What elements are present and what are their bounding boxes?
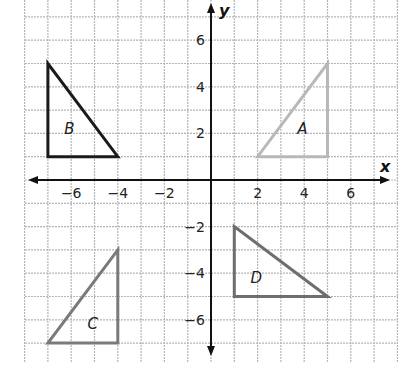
y-tick-label: −2 <box>184 219 205 235</box>
y-axis-label: y <box>219 1 230 20</box>
x-tick-label: 6 <box>346 185 355 201</box>
triangle-label-b: B <box>64 120 74 138</box>
y-tick-label: −6 <box>184 312 205 328</box>
x-tick-label: 4 <box>300 185 309 201</box>
triangle-label-d: D <box>251 269 263 287</box>
axes: xy <box>28 1 391 356</box>
y-axis-arrow-down-icon <box>207 346 215 356</box>
y-tick-label: 2 <box>196 125 205 141</box>
x-tick-label: 2 <box>253 185 262 201</box>
coordinate-plane: xy ABCD −6−4−2246642−2−4−6 <box>0 0 405 373</box>
x-tick-label: −6 <box>61 185 82 201</box>
x-axis-label: x <box>379 157 391 176</box>
y-axis-arrow-up-icon <box>207 3 215 13</box>
y-tick-label: 4 <box>196 79 205 95</box>
y-tick-label: 6 <box>196 32 205 48</box>
x-axis-arrow-left-icon <box>28 176 38 184</box>
y-tick-label: −4 <box>184 265 205 281</box>
x-axis-arrow-right-icon <box>380 176 390 184</box>
triangle-label-a: A <box>296 120 307 138</box>
x-tick-label: −4 <box>107 185 128 201</box>
x-tick-label: −2 <box>154 185 175 201</box>
triangle-label-c: C <box>88 315 99 333</box>
